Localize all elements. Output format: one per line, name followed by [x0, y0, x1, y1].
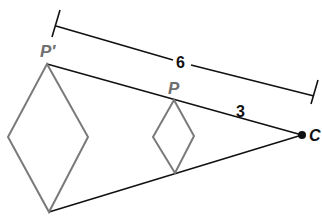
dimension-line-6-right	[191, 65, 314, 96]
center-point-dot	[298, 131, 306, 139]
dimension-tick-right	[311, 80, 318, 104]
preimage-rhombus	[153, 100, 194, 173]
preimage-point-label: P	[168, 79, 180, 98]
image-point-label: P′	[40, 42, 56, 61]
dimension-6: 6	[52, 10, 318, 104]
dilation-diagram: 6 P′ P 3 C	[0, 0, 322, 223]
dimension-line-6-left	[56, 26, 173, 60]
distance-6-label: 6	[176, 54, 185, 71]
center-label: C	[309, 127, 321, 144]
distance-3-label: 3	[236, 103, 245, 120]
image-rhombus	[8, 64, 88, 212]
dimension-tick-left	[52, 10, 60, 37]
